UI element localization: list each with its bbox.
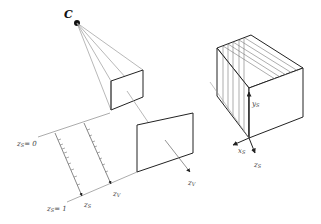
zv-label: zV [112,190,122,198]
right-figure: yS xS zS [210,35,303,169]
zv-ticks [87,129,108,172]
ys-label: yS [251,100,260,108]
xs-label: xS [238,147,246,155]
zv-arrow-label: zV [187,179,197,187]
zs-scale-axis [55,133,82,196]
camera-label: C [64,8,73,21]
zs1-line [67,172,137,202]
near-plane [111,70,143,110]
zs-label: zS [83,201,92,209]
zs-label-right: zS [253,161,262,169]
zs1-label: zS= 1 [46,205,67,213]
zs-ticks [58,139,80,185]
zs-axis [249,138,255,153]
xs-axis [233,138,249,145]
zv-scale-axis [84,123,111,184]
left-figure: C zV [16,8,197,213]
zs0-line [38,113,110,137]
zs0-label: zS= 0 [16,140,37,148]
far-plane [137,113,193,172]
projection-diagram: C zV [0,0,321,224]
